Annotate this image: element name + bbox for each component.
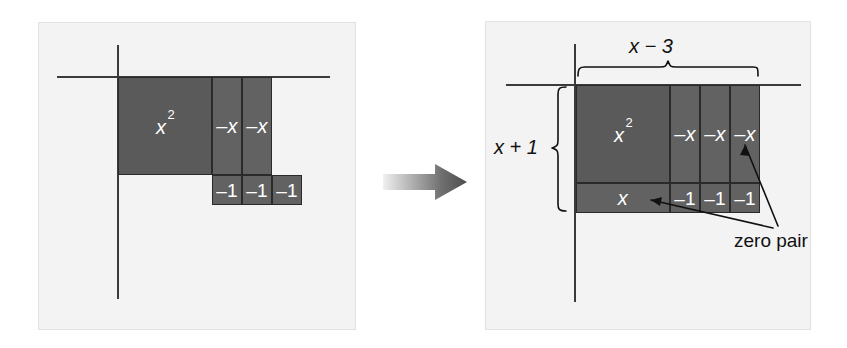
tile-label: –1: [246, 181, 268, 200]
tile-label: x2: [614, 123, 632, 145]
left-diagram-panel: [38, 22, 356, 330]
right-arrow-icon: [383, 162, 467, 202]
tile-neg-x-right-3: –x: [730, 85, 760, 183]
tile-label: –x: [674, 124, 696, 144]
tile-x-squared-left: x2: [118, 77, 212, 175]
tile-label: –x: [246, 116, 268, 136]
tile-neg-1-left-3: –1: [272, 175, 302, 205]
width-label-text: x − 3: [629, 35, 673, 57]
tile-label: –1: [734, 189, 756, 208]
left-panel-content: [39, 23, 355, 329]
tile-x-right: x: [576, 183, 670, 213]
tile-label: –1: [276, 181, 298, 200]
width-label: x − 3: [629, 36, 673, 56]
tile-neg-x-right-2: –x: [700, 85, 730, 183]
tile-label: –x: [216, 116, 238, 136]
tile-neg-x-right-1: –x: [670, 85, 700, 183]
tile-label: –1: [216, 181, 238, 200]
tile-neg-1-right-3: –1: [730, 183, 760, 213]
tile-label: –x: [704, 124, 726, 144]
tile-label: –1: [704, 189, 726, 208]
tile-label: x2: [156, 115, 174, 137]
height-label: x + 1: [494, 137, 538, 157]
tile-label: –1: [674, 189, 696, 208]
tile-label: –x: [734, 124, 756, 144]
tile-neg-1-right-2: –1: [700, 183, 730, 213]
height-label-text: x + 1: [494, 136, 538, 158]
zero-pair-label-text: zero pair: [734, 230, 808, 251]
tile-neg-x-left-2: –x: [242, 77, 272, 175]
tile-label: x: [618, 188, 628, 208]
tile-x-squared-right: x2: [576, 85, 670, 183]
zero-pair-label: zero pair: [734, 231, 808, 250]
tile-neg-1-left-2: –1: [242, 175, 272, 205]
tile-neg-x-left-1: –x: [212, 77, 242, 175]
tile-neg-1-left-1: –1: [212, 175, 242, 205]
tile-neg-1-right-1: –1: [670, 183, 700, 213]
